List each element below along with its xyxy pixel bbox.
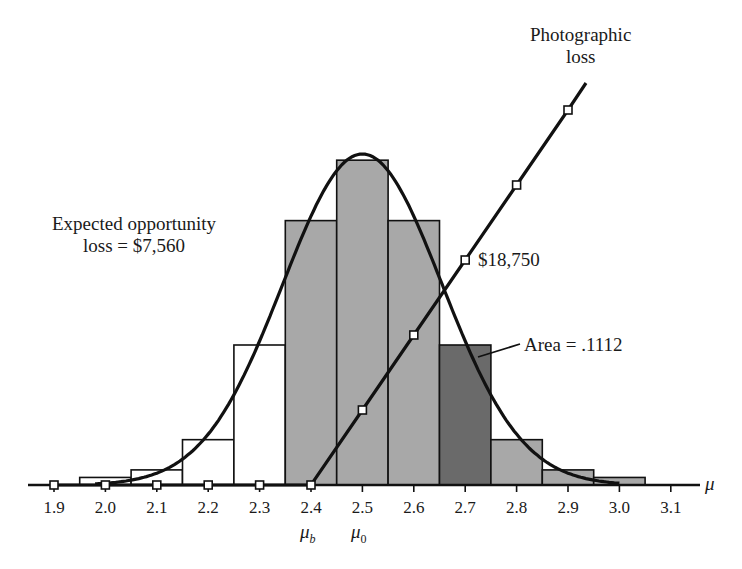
histogram-bar xyxy=(234,345,285,485)
loss-marker-square xyxy=(101,481,109,489)
x-tick-label: 2.0 xyxy=(95,497,116,519)
photographic-loss-label: Photographic loss xyxy=(530,24,631,68)
x-tick-label: 3.1 xyxy=(660,497,681,519)
loss-marker-square xyxy=(410,331,418,339)
x-tick-label: 2.9 xyxy=(557,497,578,519)
mu-b-label: μb xyxy=(300,521,316,550)
eol-label-line2: loss = $7,560 xyxy=(52,235,216,257)
mu-b-subscript: b xyxy=(310,532,316,546)
loss-marker-square xyxy=(50,481,58,489)
x-tick-label: 2.7 xyxy=(455,497,476,519)
mu-b-symbol: μ xyxy=(300,521,310,542)
axis-symbol-mu: μ xyxy=(705,473,715,495)
x-tick-label: 2.2 xyxy=(198,497,219,519)
mu-0-symbol: μ xyxy=(351,521,361,542)
x-tick-label: 2.5 xyxy=(352,497,373,519)
loss-marker-square xyxy=(153,481,161,489)
x-tick-label: 2.4 xyxy=(300,497,321,519)
photographic-loss-label-line2: loss xyxy=(530,46,631,68)
x-tick-label: 2.3 xyxy=(249,497,270,519)
x-tick-label: 3.0 xyxy=(609,497,630,519)
loss-marker-square xyxy=(256,481,264,489)
histogram-bar xyxy=(440,345,491,485)
loss-value-label: $18,750 xyxy=(478,249,540,271)
eol-label-line1: Expected opportunity xyxy=(52,213,216,235)
x-tick-label: 1.9 xyxy=(43,497,64,519)
loss-marker-square xyxy=(358,406,366,414)
histogram-bars xyxy=(80,160,645,485)
loss-marker-square xyxy=(307,481,315,489)
mu-0-label: μ0 xyxy=(351,521,367,550)
loss-marker-square xyxy=(204,481,212,489)
loss-marker-square xyxy=(461,256,469,264)
area-label: Area = .1112 xyxy=(524,334,622,356)
histogram-bar xyxy=(491,440,542,485)
photographic-loss-label-line1: Photographic xyxy=(530,24,631,46)
x-tick-label: 2.6 xyxy=(403,497,424,519)
loss-marker-square xyxy=(513,181,521,189)
chart-canvas xyxy=(0,0,742,569)
histogram-bar xyxy=(183,440,234,485)
loss-marker-square xyxy=(564,106,572,114)
mu-0-subscript: 0 xyxy=(361,532,367,546)
x-tick-label: 2.8 xyxy=(506,497,527,519)
x-tick-label: 2.1 xyxy=(146,497,167,519)
expected-opportunity-loss-label: Expected opportunity loss = $7,560 xyxy=(52,213,216,257)
